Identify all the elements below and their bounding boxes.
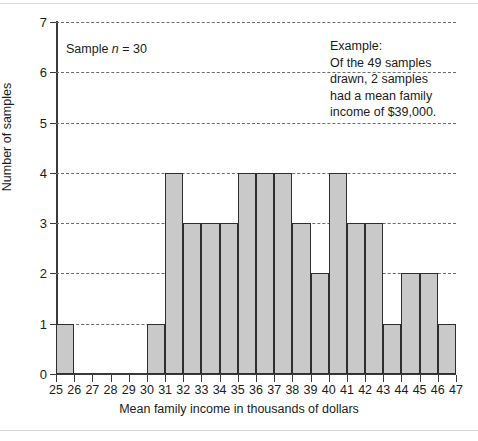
example-annotation-line-1: Example:	[330, 38, 436, 55]
x-tick-mark-27	[92, 375, 93, 382]
bar-45-46	[420, 273, 438, 374]
y-tick-label-1: 1	[40, 316, 47, 331]
bar-38-39	[292, 223, 310, 374]
x-tick-mark-38	[292, 375, 293, 382]
x-tick-mark-26	[74, 375, 75, 382]
x-tick-label-34: 34	[213, 383, 227, 397]
x-tick-mark-45	[420, 375, 421, 382]
x-tick-label-42: 42	[358, 383, 372, 397]
x-tick-mark-28	[111, 375, 112, 382]
x-tick-mark-32	[183, 375, 184, 382]
x-tick-label-30: 30	[140, 383, 154, 397]
y-tick-label-2: 2	[40, 266, 47, 281]
y-axis-title: Number of samples	[0, 52, 14, 222]
x-tick-label-26: 26	[67, 383, 81, 397]
bar-46-47	[438, 324, 456, 374]
x-tick-mark-37	[274, 375, 275, 382]
sample-size-suffix: = 30	[119, 42, 147, 56]
y-tick-mark-2	[50, 273, 56, 274]
gridline-y-5	[56, 123, 456, 124]
example-annotation-line-5: income of $39,000.	[330, 104, 436, 121]
x-tick-label-43: 43	[376, 383, 390, 397]
y-tick-label-5: 5	[40, 115, 47, 130]
bar-25-26	[56, 324, 74, 374]
sample-size-variable: n	[112, 42, 119, 56]
x-tick-label-47: 47	[449, 383, 463, 397]
x-tick-mark-41	[347, 375, 348, 382]
x-tick-mark-46	[438, 375, 439, 382]
x-tick-label-41: 41	[340, 383, 354, 397]
y-tick-mark-5	[50, 123, 56, 124]
x-tick-label-37: 37	[267, 383, 281, 397]
x-tick-mark-36	[256, 375, 257, 382]
x-tick-label-44: 44	[395, 383, 409, 397]
bar-34-35	[220, 223, 238, 374]
example-annotation-line-2: Of the 49 samples	[330, 55, 436, 72]
x-tick-mark-33	[201, 375, 202, 382]
bar-37-38	[274, 173, 292, 374]
figure-top-border	[0, 3, 478, 4]
x-tick-mark-47	[456, 375, 457, 382]
x-tick-mark-25	[56, 375, 57, 382]
x-tick-mark-39	[311, 375, 312, 382]
y-tick-label-3: 3	[40, 216, 47, 231]
bar-43-44	[383, 324, 401, 374]
x-tick-label-39: 39	[304, 383, 318, 397]
y-tick-mark-4	[50, 173, 56, 174]
bar-33-34	[201, 223, 219, 374]
y-tick-label-4: 4	[40, 165, 47, 180]
y-tick-mark-3	[50, 223, 56, 224]
x-tick-mark-44	[401, 375, 402, 382]
example-annotation-line-3: drawn, 2 samples	[330, 71, 436, 88]
x-tick-label-45: 45	[413, 383, 427, 397]
bar-40-41	[329, 173, 347, 374]
figure-bottom-border	[0, 430, 478, 431]
bar-32-33	[183, 223, 201, 374]
x-tick-label-25: 25	[49, 383, 63, 397]
y-tick-label-0: 0	[40, 367, 47, 382]
x-tick-mark-34	[220, 375, 221, 382]
histogram-figure: 01234567 2526272829303132333435363738394…	[0, 0, 478, 441]
x-tick-label-36: 36	[249, 383, 263, 397]
x-tick-label-27: 27	[85, 383, 99, 397]
x-ticks-group: 2526272829303132333435363738394041424344…	[56, 375, 456, 399]
x-axis-title: Mean family income in thousands of dolla…	[0, 402, 478, 416]
sample-size-prefix: Sample	[66, 42, 112, 56]
y-tick-label-6: 6	[40, 65, 47, 80]
y-tick-label-7: 7	[40, 15, 47, 30]
x-tick-label-29: 29	[122, 383, 136, 397]
x-tick-label-33: 33	[195, 383, 209, 397]
x-tick-mark-31	[165, 375, 166, 382]
bar-39-40	[311, 273, 329, 374]
bar-44-45	[401, 273, 419, 374]
x-tick-label-35: 35	[231, 383, 245, 397]
y-tick-mark-7	[50, 22, 56, 23]
bar-42-43	[365, 223, 383, 374]
x-tick-mark-42	[365, 375, 366, 382]
bar-31-32	[165, 173, 183, 374]
bar-35-36	[238, 173, 256, 374]
x-tick-mark-35	[238, 375, 239, 382]
x-tick-mark-30	[147, 375, 148, 382]
gridline-y-7	[56, 22, 456, 23]
x-tick-label-28: 28	[104, 383, 118, 397]
x-tick-label-31: 31	[158, 383, 172, 397]
x-tick-label-32: 32	[176, 383, 190, 397]
x-tick-mark-29	[129, 375, 130, 382]
bar-30-31	[147, 324, 165, 374]
x-tick-label-40: 40	[322, 383, 336, 397]
example-annotation-line-4: had a mean family	[330, 88, 436, 105]
bar-36-37	[256, 173, 274, 374]
sample-size-annotation: Sample n = 30	[66, 41, 147, 58]
example-annotation: Example:Of the 49 samplesdrawn, 2 sample…	[330, 38, 436, 121]
x-tick-mark-40	[329, 375, 330, 382]
y-tick-mark-6	[50, 72, 56, 73]
x-tick-label-46: 46	[431, 383, 445, 397]
bar-41-42	[347, 223, 365, 374]
x-tick-label-38: 38	[285, 383, 299, 397]
x-tick-mark-43	[383, 375, 384, 382]
